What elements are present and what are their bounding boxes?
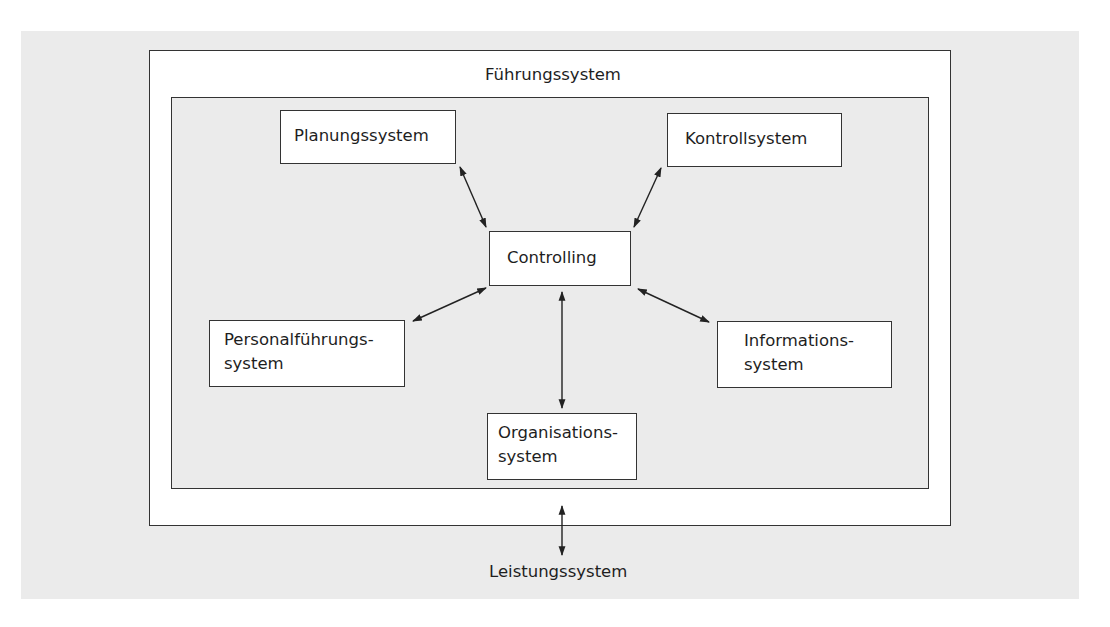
informationssystem-label-line1: Informations- [744, 330, 854, 352]
informationssystem-label-line2: system [744, 354, 804, 376]
planungssystem-node: Planungssystem [280, 110, 456, 164]
personalfuehrungssystem-label-line1: Personalführungs- [224, 329, 374, 351]
kontrollsystem-node: Kontrollsystem [667, 113, 842, 167]
organisationssystem-node: Organisations- system [487, 413, 637, 480]
organisationssystem-label-line2: system [498, 446, 558, 468]
controlling-label: Controlling [507, 247, 597, 269]
fuehrungssystem-label: Führungssystem [485, 64, 621, 86]
personalfuehrungssystem-node: Personalführungs- system [209, 320, 405, 387]
organisationssystem-label-line1: Organisations- [498, 422, 618, 444]
leistungssystem-label: Leistungssystem [489, 561, 627, 583]
controlling-node: Controlling [489, 231, 631, 286]
kontrollsystem-label: Kontrollsystem [685, 128, 807, 150]
planungssystem-label: Planungssystem [294, 125, 429, 147]
informationssystem-node: Informations- system [717, 321, 892, 388]
personalfuehrungssystem-label-line2: system [224, 353, 284, 375]
